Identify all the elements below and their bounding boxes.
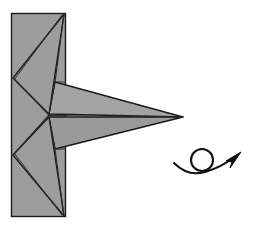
star-arm-upper-right (49, 82, 183, 117)
origami-illustration (0, 0, 258, 231)
turn-over-arrowhead-icon (226, 152, 241, 168)
turn-over-circle-icon (191, 149, 213, 171)
origami-diagram-figure (0, 0, 258, 231)
star-arm-lower-right (49, 117, 183, 149)
turn-over-arrow (174, 149, 241, 173)
